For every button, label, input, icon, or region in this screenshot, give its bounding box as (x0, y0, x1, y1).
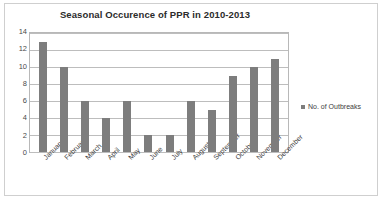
bar-slot (244, 33, 265, 152)
y-axis-tick-label: 14 (9, 28, 27, 36)
bar-slot (159, 33, 180, 152)
bar-slot (74, 33, 95, 152)
bar-january[interactable] (39, 42, 47, 153)
plot-area (29, 32, 289, 153)
bar-slot (96, 33, 117, 152)
bar-slot (117, 33, 138, 152)
y-axis: 14121086420 (9, 26, 27, 159)
y-axis-tick-label: 12 (9, 45, 27, 53)
y-axis-tick-label: 10 (9, 63, 27, 71)
chart-container: Seasonal Occurence of PPR in 2010-2013 1… (4, 3, 378, 196)
bar-march[interactable] (81, 101, 89, 152)
bar-october[interactable] (229, 76, 237, 153)
bar-june[interactable] (144, 135, 152, 152)
bar-july[interactable] (166, 135, 174, 152)
bar-december[interactable] (271, 59, 279, 153)
bar-september[interactable] (208, 110, 216, 153)
bar-series (30, 33, 288, 152)
y-axis-tick-label: 4 (9, 114, 27, 122)
bar-february[interactable] (60, 67, 68, 152)
bar-slot (223, 33, 244, 152)
y-axis-tick-label: 2 (9, 132, 27, 140)
bar-slot (201, 33, 222, 152)
legend-swatch-icon (301, 105, 305, 109)
chart-title: Seasonal Occurence of PPR in 2010-2013 (5, 9, 305, 20)
y-axis-tick-label: 6 (9, 97, 27, 105)
bar-may[interactable] (123, 101, 131, 152)
bar-november[interactable] (250, 67, 258, 152)
bar-slot (138, 33, 159, 152)
chart-legend: No. of Outbreaks (301, 103, 361, 110)
bar-slot (265, 33, 286, 152)
bar-slot (53, 33, 74, 152)
bar-april[interactable] (102, 118, 110, 152)
bar-august[interactable] (187, 101, 195, 152)
y-axis-tick-label: 0 (9, 149, 27, 157)
x-axis: JanuaryFebruaryMarchAprilMayJuneJulyAugu… (29, 154, 289, 200)
y-axis-tick-label: 8 (9, 80, 27, 88)
legend-label: No. of Outbreaks (308, 103, 361, 110)
bar-slot (180, 33, 201, 152)
bar-slot (32, 33, 53, 152)
